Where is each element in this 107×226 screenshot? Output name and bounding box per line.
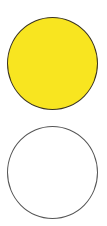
yellow-filled-circle[interactable]	[7, 17, 98, 110]
empty-white-circle[interactable]	[7, 126, 98, 219]
canvas	[0, 0, 107, 226]
